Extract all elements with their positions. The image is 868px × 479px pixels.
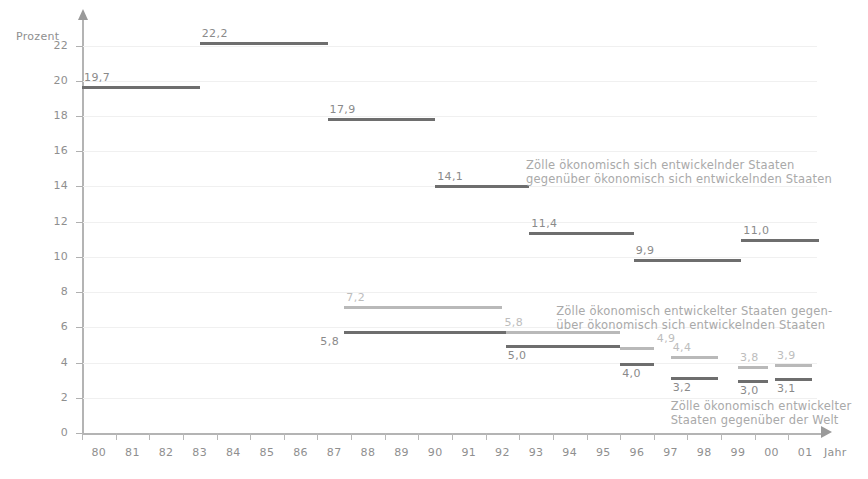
x-tick <box>385 433 386 440</box>
data-segment <box>738 366 768 369</box>
x-tick <box>418 433 419 440</box>
x-tick-label: 81 <box>119 446 145 459</box>
data-label: 3,9 <box>777 349 796 362</box>
data-segment <box>741 239 818 242</box>
y-tick-label: 14 <box>42 179 68 192</box>
x-tick <box>587 433 588 440</box>
data-label: 17,9 <box>330 103 356 116</box>
data-label: 5,0 <box>508 349 527 362</box>
x-axis-title: Jahr <box>824 446 847 459</box>
x-tick-label: 92 <box>489 446 515 459</box>
data-label: 4,0 <box>622 367 641 380</box>
annotation-line: Staaten gegenüber der Welt <box>671 413 852 427</box>
x-tick <box>250 433 251 440</box>
y-tick-label: 18 <box>42 109 68 122</box>
x-tick-label: 86 <box>288 446 314 459</box>
gridline <box>82 46 817 47</box>
y-tick <box>76 151 83 152</box>
y-tick <box>76 186 83 187</box>
cropped-header-text <box>170 0 770 7</box>
data-segment <box>620 347 654 350</box>
x-tick-label: 89 <box>389 446 415 459</box>
x-tick-label: 98 <box>691 446 717 459</box>
chart-figure: Prozent 0246810121416182022 808182838485… <box>0 0 868 479</box>
x-tick <box>755 433 756 440</box>
y-tick <box>76 46 83 47</box>
x-tick <box>82 433 83 440</box>
x-tick <box>788 433 789 440</box>
gridline <box>82 292 817 293</box>
x-tick-label: 82 <box>153 446 179 459</box>
data-label: 4,4 <box>673 341 692 354</box>
data-label: 5,8 <box>320 335 339 348</box>
y-tick-label: 0 <box>42 426 68 439</box>
x-tick-label: 87 <box>321 446 347 459</box>
data-segment <box>738 380 768 383</box>
annotation-line: gegenüber ökonomisch sich entwickelnden … <box>526 172 832 186</box>
gridline <box>82 81 817 82</box>
data-label: 3,2 <box>673 381 692 394</box>
data-segment <box>200 42 328 45</box>
data-label: 11,4 <box>531 217 557 230</box>
data-segment <box>506 345 620 348</box>
data-label: 14,1 <box>437 170 463 183</box>
y-axis-arrow-icon <box>78 9 88 20</box>
data-segment <box>435 185 529 188</box>
data-label: 22,2 <box>202 27 228 40</box>
y-tick-label: 10 <box>42 250 68 263</box>
x-tick-label: 97 <box>658 446 684 459</box>
gridline <box>82 151 817 152</box>
y-tick-label: 20 <box>42 74 68 87</box>
data-segment <box>671 356 718 359</box>
y-tick-label: 16 <box>42 144 68 157</box>
data-segment <box>529 232 633 235</box>
x-tick <box>183 433 184 440</box>
data-label: 3,1 <box>777 382 796 395</box>
data-label: 19,7 <box>84 71 110 84</box>
y-tick <box>76 222 83 223</box>
x-tick <box>620 433 621 440</box>
x-tick <box>149 433 150 440</box>
annot-advanced-vs-world: Zölle ökonomisch entwickelterStaaten geg… <box>671 399 852 427</box>
data-segment <box>344 331 505 334</box>
x-tick-label: 80 <box>86 446 112 459</box>
data-label: 9,9 <box>636 244 655 257</box>
data-segment <box>775 378 812 381</box>
gridline <box>82 116 817 117</box>
y-tick <box>76 327 83 328</box>
x-tick <box>519 433 520 440</box>
x-tick-label: 95 <box>590 446 616 459</box>
y-tick-label: 6 <box>42 320 68 333</box>
x-tick-label: 01 <box>792 446 818 459</box>
data-segment <box>634 259 742 262</box>
x-tick <box>452 433 453 440</box>
x-tick <box>217 433 218 440</box>
y-tick-label: 4 <box>42 356 68 369</box>
data-segment <box>328 118 436 121</box>
x-tick-label: 91 <box>456 446 482 459</box>
data-segment <box>620 363 654 366</box>
y-tick <box>76 81 83 82</box>
x-tick-label: 88 <box>355 446 381 459</box>
data-label: 7,2 <box>346 291 365 304</box>
x-tick <box>284 433 285 440</box>
x-axis-arrow-icon <box>821 426 832 438</box>
x-tick-label: 96 <box>624 446 650 459</box>
x-tick-label: 83 <box>187 446 213 459</box>
y-tick <box>76 363 83 364</box>
annot-developing-vs-developing: Zölle ökonomisch sich entwickelnder Staa… <box>526 158 832 186</box>
annotation-line: Zölle ökonomisch entwickelter <box>671 399 852 413</box>
x-tick-label: 90 <box>422 446 448 459</box>
data-segment <box>82 86 200 89</box>
plot-area: 0246810121416182022 80818283848586878889… <box>82 28 822 433</box>
annotation-line: über ökonomisch sich entwickelnden Staat… <box>556 318 832 332</box>
data-segment <box>344 306 502 309</box>
data-label: 5,8 <box>504 316 523 329</box>
y-tick <box>76 257 83 258</box>
y-tick-label: 2 <box>42 391 68 404</box>
annotation-line: Zölle ökonomisch entwickelter Staaten ge… <box>556 304 832 318</box>
data-label: 3,0 <box>740 384 759 397</box>
x-tick-label: 00 <box>759 446 785 459</box>
y-tick <box>76 398 83 399</box>
x-tick <box>721 433 722 440</box>
